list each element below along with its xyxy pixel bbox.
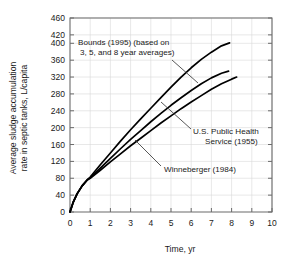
y-tick-label: 200 <box>51 123 65 133</box>
x-tick-label: 7 <box>209 218 214 228</box>
y-axis-tick-labels: 04080120160200240280320360400420460 <box>51 13 65 217</box>
y-tick-label: 360 <box>51 55 65 65</box>
annotation-leader-lines <box>135 60 198 166</box>
y-tick-label: 160 <box>51 140 65 150</box>
y-tick-label: 40 <box>56 190 66 200</box>
y-tick-label: 460 <box>51 13 65 23</box>
x-tick-label: 5 <box>169 218 174 228</box>
x-tick-label: 0 <box>68 218 73 228</box>
annotation-winneberger-line1: Winneberger (1984) <box>164 165 236 174</box>
annotation-bounds-line1: Bounds (1995) (based on <box>78 38 169 47</box>
x-tick-label: 2 <box>108 218 113 228</box>
annotation-usphs-line2: Service (1955) <box>205 137 258 146</box>
y-tick-label: 0 <box>60 207 65 217</box>
x-tick-label: 6 <box>189 218 194 228</box>
x-tick-label: 8 <box>229 218 234 228</box>
y-tick-label: 120 <box>51 156 65 166</box>
y-tick-label: 320 <box>51 72 65 82</box>
x-axis-tick-labels: 012345678910 <box>68 218 277 228</box>
x-tick-label: 4 <box>148 218 153 228</box>
leader-line-winneberger <box>135 140 161 166</box>
y-axis-title-line1: Average sludge accumulation <box>8 61 18 174</box>
x-tick-label: 9 <box>249 218 254 228</box>
x-axis-title: Time, yr <box>165 244 196 254</box>
y-tick-label: 280 <box>51 89 65 99</box>
annotation-usphs-line1: U.S. Public Health <box>193 127 259 136</box>
y-tick-label: 240 <box>51 106 65 116</box>
x-tick-label: 3 <box>128 218 133 228</box>
sludge-accumulation-chart: 04080120160200240280320360400420460 0123… <box>0 0 292 260</box>
leader-line-bounds <box>172 60 198 83</box>
chart-canvas: 04080120160200240280320360400420460 0123… <box>0 0 292 260</box>
x-tick-label: 1 <box>88 218 93 228</box>
y-tick-label: 420 <box>51 30 65 40</box>
annotation-bounds-line2: 3, 5, and 8 year averages) <box>80 48 175 57</box>
y-tick-label: 80 <box>56 173 66 183</box>
x-tick-label: 10 <box>267 218 277 228</box>
y-axis-title-line2: rate in septic tanks, L/capita <box>19 65 29 172</box>
